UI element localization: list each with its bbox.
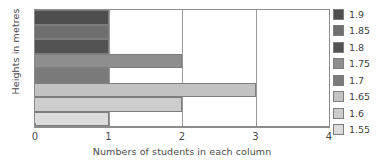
x-tick-label-0: 0 xyxy=(25,131,45,142)
legend: 1.91.851.81.751.71.651.61.55 xyxy=(333,6,390,138)
legend-swatch-1.7 xyxy=(333,75,344,86)
x-tick-1 xyxy=(109,123,110,128)
legend-item-1.65: 1.65 xyxy=(333,89,390,106)
x-tick-2 xyxy=(182,123,183,128)
legend-swatch-1.6 xyxy=(333,108,344,119)
legend-swatch-1.55 xyxy=(333,124,344,135)
legend-label-1.85: 1.85 xyxy=(349,26,370,36)
bar-1.8 xyxy=(35,39,109,54)
bar-series xyxy=(35,10,329,126)
legend-item-1.85: 1.85 xyxy=(333,23,390,40)
x-tick-4 xyxy=(329,123,330,128)
bar-1.9 xyxy=(35,10,109,25)
bar-row xyxy=(35,83,256,98)
legend-item-1.55: 1.55 xyxy=(333,122,390,139)
legend-item-1.75: 1.75 xyxy=(333,56,390,73)
legend-label-1.9: 1.9 xyxy=(349,10,364,20)
legend-item-1.8: 1.8 xyxy=(333,39,390,56)
bar-row xyxy=(35,25,109,40)
plot-area xyxy=(34,9,330,127)
legend-swatch-1.75 xyxy=(333,58,344,69)
legend-label-1.65: 1.65 xyxy=(349,92,370,102)
x-tick-label-3: 3 xyxy=(246,131,266,142)
legend-label-1.75: 1.75 xyxy=(349,59,370,69)
legend-swatch-1.8 xyxy=(333,42,344,53)
legend-item-1.9: 1.9 xyxy=(333,6,390,23)
bar-row xyxy=(35,112,109,127)
legend-item-1.7: 1.7 xyxy=(333,72,390,89)
bar-row xyxy=(35,54,182,69)
bar-row xyxy=(35,97,182,112)
y-axis-title: Heights in metres xyxy=(10,0,21,107)
legend-label-1.6: 1.6 xyxy=(349,109,364,119)
x-tick-label-2: 2 xyxy=(172,131,192,142)
legend-label-1.8: 1.8 xyxy=(349,43,364,53)
bar-1.75 xyxy=(35,54,182,69)
legend-item-1.6: 1.6 xyxy=(333,105,390,122)
legend-swatch-1.65 xyxy=(333,91,344,102)
bar-chart: Heights in metres 01234 Numbers of stude… xyxy=(0,0,390,162)
x-tick-0 xyxy=(35,123,36,128)
x-axis: 01234 xyxy=(34,127,330,128)
bar-1.7 xyxy=(35,68,109,83)
bar-1.55 xyxy=(35,112,109,127)
bar-1.65 xyxy=(35,83,256,98)
x-tick-label-1: 1 xyxy=(99,131,119,142)
legend-label-1.55: 1.55 xyxy=(349,125,370,135)
x-tick-3 xyxy=(256,123,257,128)
bar-1.6 xyxy=(35,97,182,112)
bar-row xyxy=(35,39,109,54)
legend-swatch-1.85 xyxy=(333,25,344,36)
legend-label-1.7: 1.7 xyxy=(349,76,364,86)
bar-1.85 xyxy=(35,25,109,40)
legend-swatch-1.9 xyxy=(333,9,344,20)
bar-row xyxy=(35,68,109,83)
bar-row xyxy=(35,10,109,25)
x-axis-title: Numbers of students in each column xyxy=(34,146,330,157)
